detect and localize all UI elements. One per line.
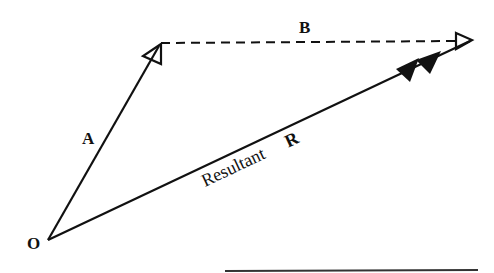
vector-b-dashed-line <box>161 41 458 43</box>
resultant-arrowhead-2-icon <box>416 51 441 74</box>
vector-a-label: A <box>82 129 95 148</box>
origin-label: O <box>27 234 40 253</box>
vector-a-arrowhead-icon <box>143 44 161 64</box>
resultant-arrowhead-1-icon <box>396 58 419 82</box>
bottom-rule <box>225 270 478 271</box>
vector-a-line <box>48 46 159 240</box>
resultant-label: Resultant <box>198 143 268 190</box>
vector-diagram: O A B Resultant R <box>0 0 494 273</box>
resultant-symbol-label: R <box>281 127 302 151</box>
vector-b-label: B <box>299 18 310 37</box>
